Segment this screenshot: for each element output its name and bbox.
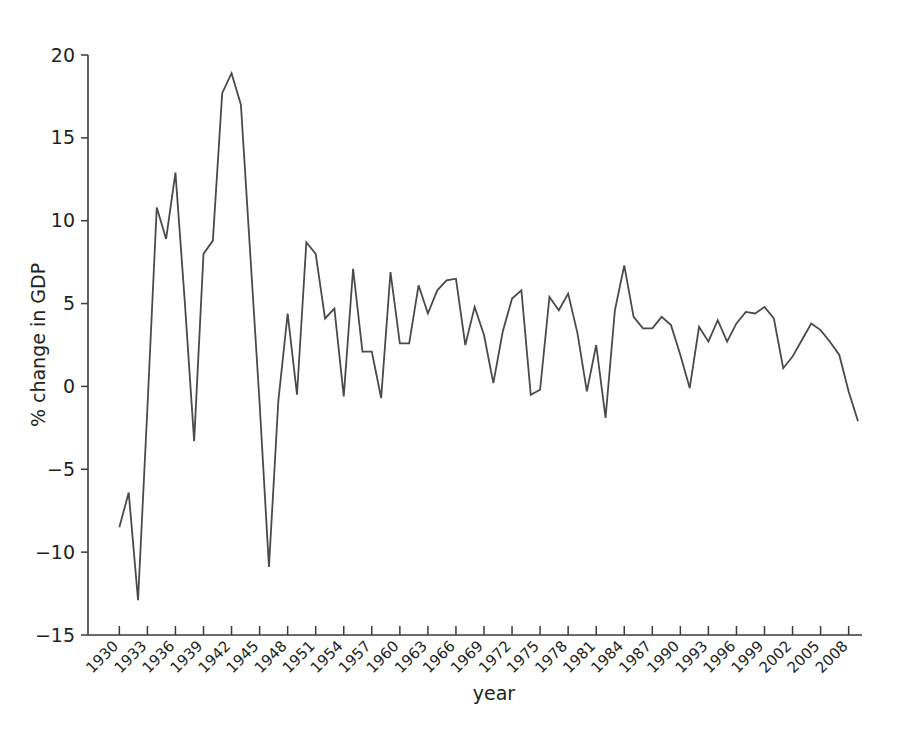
chart-canvas: 20151050−5−10−15 19301933193619391942194…: [0, 0, 911, 729]
y-axis-tick-label: 0: [63, 375, 75, 397]
gdp-change-line: [119, 73, 858, 600]
x-axis: 1930193319361939194219451948195119541957…: [82, 626, 862, 677]
y-axis-tick-label: −10: [35, 541, 75, 563]
axis-titles: year% change in GDP: [27, 263, 515, 704]
y-axis-tick-label: −15: [35, 624, 75, 646]
y-axis-tick-label: 20: [51, 44, 75, 66]
y-axis-tick-label: 5: [63, 292, 75, 314]
x-axis-title: year: [473, 682, 516, 704]
y-axis-title: % change in GDP: [27, 263, 49, 427]
y-axis-tick-label: −5: [47, 458, 75, 480]
gdp-change-line-chart: 20151050−5−10−15 19301933193619391942194…: [0, 0, 911, 729]
x-axis-tick-label: 2008: [812, 637, 852, 677]
y-axis-tick-label: 15: [51, 126, 75, 148]
gdp-series: [119, 73, 858, 600]
y-axis-tick-label: 10: [51, 209, 75, 231]
